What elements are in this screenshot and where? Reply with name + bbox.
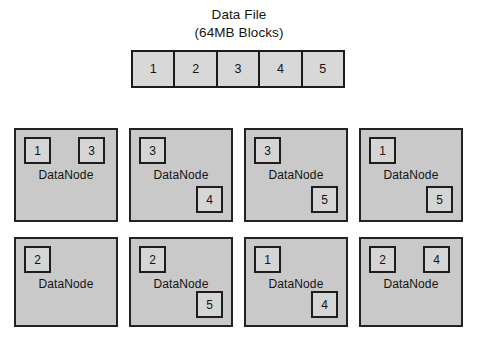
datanode-block-chip: 3 — [254, 137, 281, 164]
file-block-cell: 3 — [218, 52, 260, 86]
datanode-panel: 34DataNode — [129, 128, 233, 222]
file-block-cell: 1 — [133, 52, 175, 86]
datanode-block-chip: 4 — [311, 291, 338, 318]
datanode-panel: 15DataNode — [359, 128, 463, 222]
datanode-panel: 35DataNode — [244, 128, 348, 222]
datanode-block-chip: 2 — [24, 246, 51, 273]
datanode-label: DataNode — [361, 168, 461, 182]
diagram-title-line-1: Data File — [0, 6, 478, 23]
datanode-label: DataNode — [246, 277, 346, 291]
datanode-panel: 2DataNode — [14, 237, 118, 327]
datanode-block-chip: 2 — [139, 246, 166, 273]
datanode-panel: 25DataNode — [129, 237, 233, 327]
datanode-block-chip: 1 — [254, 246, 281, 273]
datanode-panel: 13DataNode — [14, 128, 118, 222]
file-block-cell: 4 — [260, 52, 302, 86]
datanode-block-chip: 4 — [423, 246, 450, 273]
datanode-label: DataNode — [16, 277, 116, 291]
datanode-block-chip: 3 — [139, 137, 166, 164]
diagram-title: Data File (64MB Blocks) — [0, 6, 478, 41]
datanode-block-chip: 5 — [311, 186, 338, 213]
datanode-panel: 24DataNode — [359, 237, 463, 327]
datanode-label: DataNode — [16, 168, 116, 182]
file-block-cell: 5 — [303, 52, 343, 86]
file-block-cell: 2 — [175, 52, 217, 86]
diagram-title-line-2: (64MB Blocks) — [0, 24, 478, 41]
datanode-block-chip: 4 — [196, 186, 223, 213]
datanode-label: DataNode — [131, 168, 231, 182]
datanode-block-chip: 5 — [196, 291, 223, 318]
datanode-block-chip: 3 — [78, 137, 105, 164]
datanode-block-chip: 2 — [369, 246, 396, 273]
datanode-block-chip: 1 — [24, 137, 51, 164]
datanode-panel: 14DataNode — [244, 237, 348, 327]
datanode-block-chip: 5 — [426, 186, 453, 213]
datanode-label: DataNode — [131, 277, 231, 291]
datanode-label: DataNode — [361, 277, 461, 291]
diagram-canvas: Data File (64MB Blocks) 12345 13DataNode… — [0, 0, 478, 341]
datanode-label: DataNode — [246, 168, 346, 182]
datanode-block-chip: 1 — [369, 137, 396, 164]
data-file-block-strip: 12345 — [131, 50, 345, 88]
